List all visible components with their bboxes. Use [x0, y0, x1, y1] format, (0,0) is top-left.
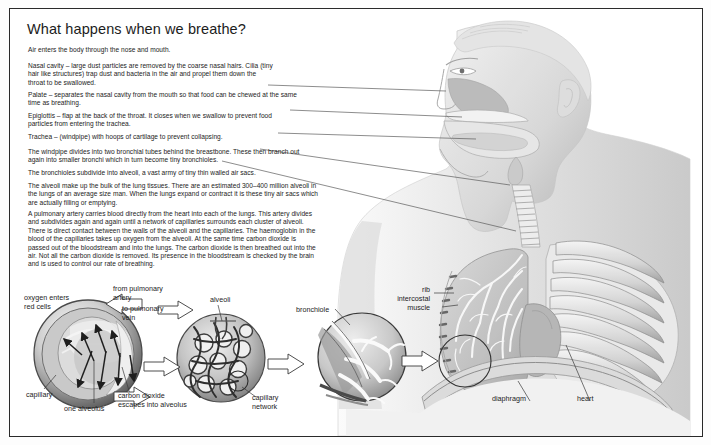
label-from-pulmonary-artery: from pulmonary artery — [113, 285, 163, 302]
paragraph-bronchioles: The bronchioles subdivide into alveoli, … — [28, 169, 318, 177]
label-heart: heart — [577, 395, 593, 404]
paragraph-intro: Air enters the body through the nose and… — [28, 46, 278, 54]
label-capillary-network: capillary network — [252, 394, 278, 411]
paragraph-nasal-cavity: Nasal cavity – large dust particles are … — [28, 62, 274, 87]
label-diaphragm: diaphragm — [492, 395, 526, 404]
paragraph-windpipe: The windpipe divides into two bronchial … — [28, 148, 316, 165]
paragraph-epiglottis: Epiglottis – flap at the back of the thr… — [28, 112, 293, 129]
paragraph-palate: Palate – separates the nasal cavity from… — [28, 91, 303, 108]
label-alveoli: alveoli — [210, 296, 230, 305]
label-intercostal-muscle: intercostal muscle — [368, 295, 430, 312]
label-capillary: capillary — [26, 391, 52, 400]
paragraph-alveoli: The alveoli make up the bulk of the lung… — [28, 182, 320, 207]
page-frame: What happens when we breathe? Air enters… — [9, 8, 703, 437]
screenshot-root: What happens when we breathe? Air enters… — [0, 0, 711, 445]
label-carbon-dioxide-escapes: carbon dioxide escapes into alveolus — [118, 392, 187, 409]
paragraph-pulmonary-artery: A pulmonary artery carries blood directl… — [28, 210, 318, 269]
label-one-alveolus: one alveolus — [64, 405, 104, 414]
label-to-pulmonary-vein: to pulmonary vein — [122, 305, 164, 322]
label-oxygen-enters-red-cells: oxygen enters red cells — [24, 294, 69, 311]
label-bronchiole: bronchiole — [296, 306, 329, 315]
paragraph-trachea: Trachea – (windpipe) with hoops of carti… — [28, 133, 268, 141]
page-title: What happens when we breathe? — [27, 21, 246, 37]
